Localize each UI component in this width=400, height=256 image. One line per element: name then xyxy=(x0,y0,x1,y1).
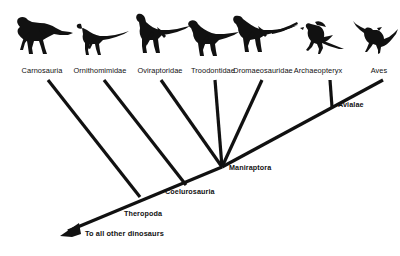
taxon-label-archaeopteryx: Archaeopteryx xyxy=(294,66,342,75)
branch-troodontidae xyxy=(215,80,222,167)
taxon-label-aves: Aves xyxy=(371,66,388,75)
taxon-label-dromaeosauridae: Dromaeosauridae xyxy=(233,66,293,75)
branch-carnosauria xyxy=(48,80,140,197)
archaeopteryx-silhouette xyxy=(295,16,345,58)
dromaeosaurid-silhouette xyxy=(227,10,299,56)
root-arrowhead xyxy=(60,223,81,237)
bird-silhouette xyxy=(351,16,399,56)
taxon-label-carnosauria: Carnosauria xyxy=(22,66,63,75)
clade-label-theropoda: Theropoda xyxy=(124,209,162,218)
branch-root-spine xyxy=(68,167,222,231)
branch-dromaeosauridae xyxy=(222,80,262,167)
clade-label-maniraptora: Maniraptora xyxy=(229,163,271,172)
root-annotation-label: To all other dinosaurs xyxy=(85,229,164,238)
clade-label-avialae: Avialae xyxy=(338,100,364,109)
taxon-label-oviraptoridae: Oviraptoridae xyxy=(137,66,182,75)
ornithomimid-silhouette xyxy=(69,14,131,58)
oviraptorid-silhouette xyxy=(125,10,191,58)
branch-oviraptoridae xyxy=(161,80,222,167)
carnosaur-silhouette xyxy=(10,10,74,58)
branch-maniraptora-to-aves xyxy=(222,80,383,167)
branch-lines xyxy=(48,80,383,231)
clade-label-coelurosauria: Coelurosauria xyxy=(165,187,215,196)
taxon-label-troodontidae: Troodontidae xyxy=(191,66,235,75)
branch-archaeopteryx xyxy=(330,80,332,107)
cladogram-figure: Carnosauria Ornithomimidae Oviraptoridae… xyxy=(0,0,400,256)
taxon-label-ornithomimidae: Ornithomimidae xyxy=(74,66,127,75)
